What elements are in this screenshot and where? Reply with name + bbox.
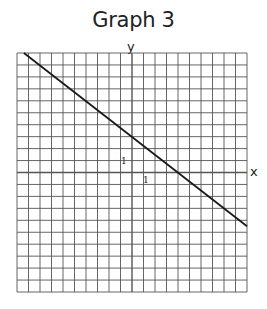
data-line	[24, 53, 247, 226]
coordinate-grid	[0, 0, 267, 309]
